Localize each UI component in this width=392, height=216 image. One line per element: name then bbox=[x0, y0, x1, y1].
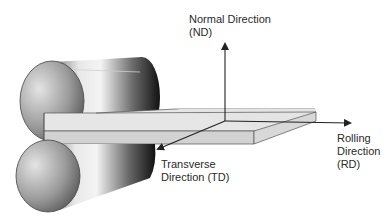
lower-roll bbox=[16, 140, 155, 212]
normal-direction-label: Normal Direction (ND) bbox=[189, 13, 271, 39]
transverse-direction-line1: Transverse bbox=[161, 158, 229, 171]
transverse-direction-label: Transverse Direction (TD) bbox=[161, 158, 229, 184]
rolling-direction-line2: Direction bbox=[337, 145, 380, 158]
normal-direction-line1: Normal Direction bbox=[189, 13, 271, 26]
rolling-direction-line3: (RD) bbox=[337, 158, 380, 171]
rolling-direction-label: Rolling Direction (RD) bbox=[337, 132, 380, 171]
normal-direction-line2: (ND) bbox=[189, 26, 271, 39]
rolled-sheet bbox=[44, 109, 316, 144]
transverse-direction-line2: Direction (TD) bbox=[161, 171, 229, 184]
rolling-direction-line1: Rolling bbox=[337, 132, 380, 145]
